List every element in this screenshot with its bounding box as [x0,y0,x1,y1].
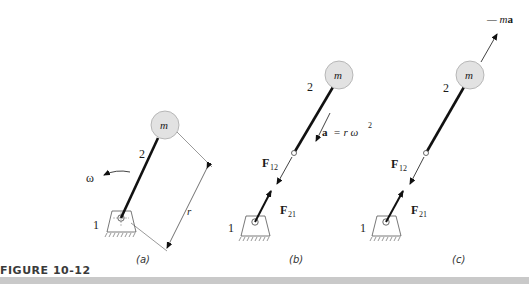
mass-label-a: m [160,119,168,131]
link-2-c [426,87,464,153]
ground-label-c: 1 [360,221,366,235]
caption-a: (a) [136,254,150,265]
link-2-b [294,87,333,153]
joint-b [292,151,297,156]
f12-sub-b: 12 [270,163,278,172]
ground-pivot-b [239,216,270,241]
f12-arrow-b [277,157,292,184]
caption-c: (c) [452,254,465,265]
inertia-force-label: — ma [486,13,513,25]
ground-pivot-a [105,211,136,237]
bottom-rule [0,277,529,284]
mass-label-b: m [334,69,342,81]
link-label-a: 2 [139,147,145,161]
caption-b: (b) [289,254,303,265]
panel-c: m 2 1 — ma F 12 F 21 (c) [360,13,513,265]
ground-pivot-c [370,216,401,241]
link-label-c: 2 [443,81,449,95]
f12-sub-c: 12 [399,164,407,173]
figure-10-12-diagram: m 2 1 ω r (a) m 2 1 [0,0,529,284]
inertia-force-arrow [481,34,497,62]
f12-label-b: F [262,156,269,170]
f21-label-b: F [280,203,287,217]
omega-arrow [104,171,130,175]
f21-label-c: F [411,203,418,217]
f21-arrow-b [255,191,271,222]
panel-b: m 2 1 a = r ω 2 F 12 F 21 (b) [228,61,372,265]
link-label-b: 2 [307,80,313,94]
f21-arrow-c [386,191,403,222]
ground-label-b: 1 [228,221,234,235]
panel-a: m 2 1 ω r (a) [86,111,212,265]
radius-label: r [187,205,192,217]
joint-c [424,151,429,156]
accel-label: a = r ω [322,126,358,138]
accel-exponent: 2 [368,121,372,130]
f21-sub-c: 21 [419,210,427,219]
omega-label: ω [86,171,94,185]
f12-arrow-c [410,157,424,184]
mass-label-c: m [465,69,473,81]
f12-label-c: F [391,157,398,171]
figure-label: FIGURE 10-12 [0,264,91,277]
f21-sub-b: 21 [288,210,296,219]
ground-label-a: 1 [93,218,99,232]
